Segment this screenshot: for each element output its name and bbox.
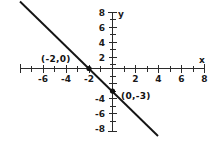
point-marker-x-intercept <box>86 66 91 71</box>
y-axis-label: y <box>118 9 124 19</box>
annotation-point-0-neg3: (0,-3) <box>121 91 151 101</box>
cartesian-plot: -6 -4 -2 2 4 6 8 8 6 4 2 -4 -6 -8 y x (-… <box>0 0 218 144</box>
x-axis-label: x <box>199 55 205 65</box>
y-tick-label-4: 4 <box>99 38 105 48</box>
y-tick-label-neg6: -6 <box>95 109 105 119</box>
y-tick-label-2: 2 <box>99 53 105 63</box>
x-tick-labels: -6 -4 -2 2 4 6 8 <box>38 74 208 84</box>
x-tick-label-8: 8 <box>201 74 207 84</box>
annotation-point-neg2-0: (-2,0) <box>41 54 71 64</box>
y-tick-label-neg8: -8 <box>95 124 105 134</box>
x-tick-label-6: 6 <box>178 74 184 84</box>
x-tick-label-2: 2 <box>132 74 138 84</box>
y-tick-label-neg4: -4 <box>95 94 105 104</box>
graph-figure: -6 -4 -2 2 4 6 8 8 6 4 2 -4 -6 -8 y x (-… <box>0 0 218 144</box>
x-tick-label-neg6: -6 <box>38 74 48 84</box>
x-tick-label-neg4: -4 <box>61 74 71 84</box>
x-tick-label-4: 4 <box>155 74 161 84</box>
x-tick-label-neg2: -2 <box>84 74 94 84</box>
y-tick-label-6: 6 <box>99 23 105 33</box>
point-marker-y-intercept <box>110 88 115 93</box>
y-tick-label-8: 8 <box>99 8 105 18</box>
